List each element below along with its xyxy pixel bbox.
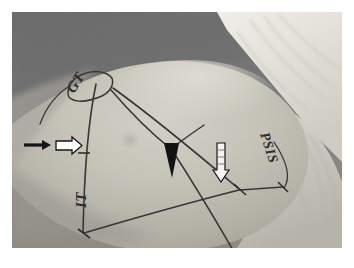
film-grain — [12, 12, 342, 248]
photograph-canvas: GT IT PSIS — [12, 12, 342, 248]
caption-strip — [0, 248, 354, 268]
clinical-photograph: GT IT PSIS — [12, 12, 342, 248]
figure-root: GT IT PSIS — [0, 0, 354, 268]
